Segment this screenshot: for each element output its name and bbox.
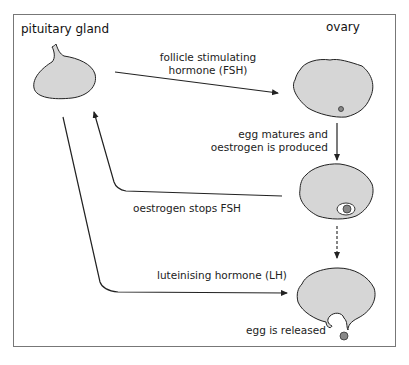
egg-small: [339, 107, 344, 112]
ovary-shape-1: [293, 59, 372, 117]
ovary-shape-2: [300, 164, 373, 219]
released-egg: [340, 332, 348, 340]
egg-released-label: egg is released: [246, 324, 326, 336]
ovary-shape-3: [297, 268, 375, 330]
matures-label-line1: egg matures and: [200, 128, 328, 140]
fsh-label-line1: follicle stimulating: [148, 51, 268, 63]
follicle-egg: [343, 205, 351, 213]
lh-label: luteinising hormone (LH): [157, 269, 287, 281]
matures-label-line2: oestrogen is produced: [200, 141, 328, 153]
pituitary-gland-title: pituitary gland: [21, 22, 109, 36]
ovary-title: ovary: [326, 20, 360, 34]
oestrogen-stops-label: oestrogen stops FSH: [133, 202, 241, 214]
oestrogen-feedback-arrow: [94, 112, 282, 196]
fsh-label-line2: hormone (FSH): [148, 64, 268, 76]
pituitary-gland-shape: [34, 44, 96, 99]
